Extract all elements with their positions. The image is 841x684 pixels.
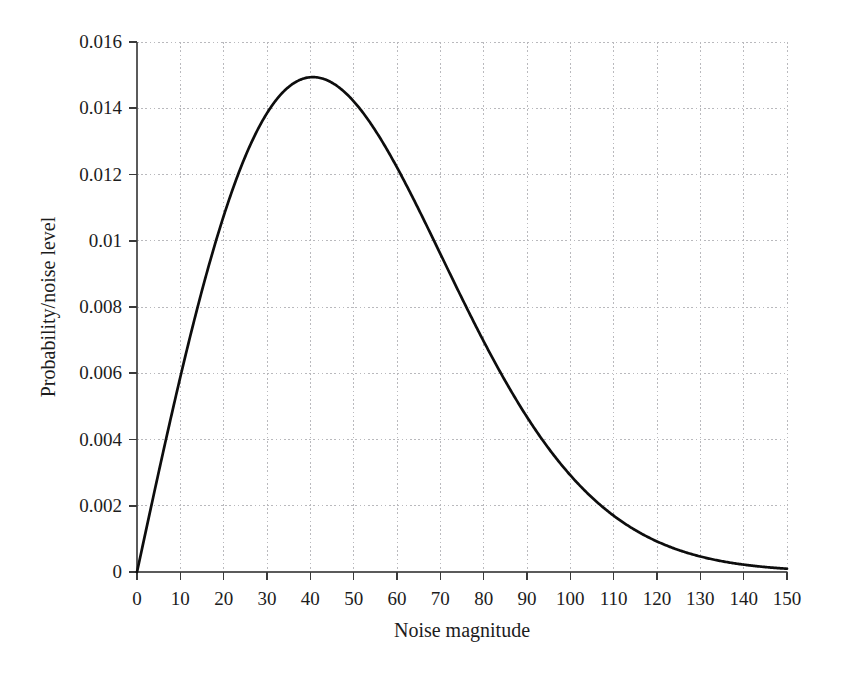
x-tick-label: 70 [431, 588, 450, 609]
x-tick-label: 90 [518, 588, 537, 609]
y-tick-label: 0.01 [89, 230, 122, 251]
y-tick-label: 0.006 [79, 362, 122, 383]
probability-density-chart: 0102030405060708090100110120130140150 00… [0, 0, 841, 684]
y-tick-label: 0 [113, 561, 123, 582]
x-tick-label: 20 [214, 588, 233, 609]
x-tick-label: 40 [301, 588, 320, 609]
y-tick-label: 0.016 [79, 31, 122, 52]
x-tick-label: 130 [686, 588, 715, 609]
y-tick-label: 0.004 [79, 429, 122, 450]
x-tick-label: 120 [643, 588, 672, 609]
x-tick-label: 60 [388, 588, 407, 609]
y-tick-label: 0.012 [79, 164, 122, 185]
x-tick-label: 50 [344, 588, 363, 609]
x-tick-label: 80 [474, 588, 493, 609]
x-tick-label: 150 [773, 588, 802, 609]
y-tick-label: 0.008 [79, 296, 122, 317]
x-tick-label: 0 [132, 588, 142, 609]
y-axis-tick-labels: 00.0020.0040.0060.0080.010.0120.0140.016 [79, 31, 122, 582]
x-tick-label: 30 [258, 588, 277, 609]
x-tick-label: 10 [171, 588, 190, 609]
chart-background [0, 0, 841, 684]
y-tick-label: 0.002 [79, 495, 122, 516]
x-tick-label: 140 [729, 588, 758, 609]
x-tick-label: 100 [556, 588, 585, 609]
y-tick-label: 0.014 [79, 97, 122, 118]
chart-figure: 0102030405060708090100110120130140150 00… [0, 0, 841, 684]
y-axis-title: Probability/noise level [37, 216, 60, 397]
x-tick-label: 110 [600, 588, 628, 609]
x-axis-title: Noise magnitude [394, 619, 530, 642]
